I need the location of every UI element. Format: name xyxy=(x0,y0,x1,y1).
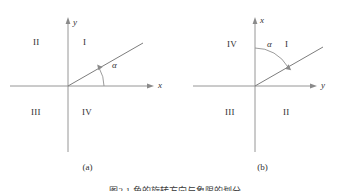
diagram-panel-a: y x α II I III IV (a) xyxy=(0,0,175,191)
quadrant-label-b-lower-left: III xyxy=(225,108,235,117)
quadrant-label-a-lower-right: IV xyxy=(82,108,92,117)
diagram-a-graphic xyxy=(0,0,175,170)
quadrant-label-b-upper-right: I xyxy=(285,40,288,49)
angle-label-a: α xyxy=(112,61,117,70)
quadrant-label-b-lower-right: II xyxy=(283,108,289,117)
vertical-axis-arrowhead-a xyxy=(66,17,71,24)
angle-arc-arrowhead-b xyxy=(285,64,291,70)
angle-arc-a xyxy=(99,68,104,86)
vertical-axis-label-b: x xyxy=(260,16,264,25)
diagram-panel-b: x y α IV I III II (b) xyxy=(175,0,350,191)
horizontal-axis-arrowhead-a xyxy=(147,84,154,89)
sub-caption-b: (b) xyxy=(175,162,350,172)
horizontal-axis-arrowhead-b xyxy=(310,84,317,89)
angle-arc-b xyxy=(255,48,288,67)
terminal-ray-a xyxy=(68,43,143,86)
angle-label-b: α xyxy=(267,40,272,49)
quadrant-label-a-upper-left: II xyxy=(33,38,39,47)
horizontal-axis-label-a: x xyxy=(158,81,162,90)
vertical-axis-label-a: y xyxy=(73,18,77,27)
quadrant-label-b-upper-left: IV xyxy=(227,40,237,49)
figure-caption: 图2-1 角的旋转方向与象限的划分 xyxy=(0,184,350,191)
quadrant-label-a-lower-left: III xyxy=(31,108,41,117)
horizontal-axis-label-b: y xyxy=(321,81,325,90)
vertical-axis-arrowhead-b xyxy=(253,17,258,24)
quadrant-label-a-upper-right: I xyxy=(83,38,86,47)
figure-container: y x α II I III IV (a) x y α xyxy=(0,0,350,191)
sub-caption-a: (a) xyxy=(0,162,175,172)
